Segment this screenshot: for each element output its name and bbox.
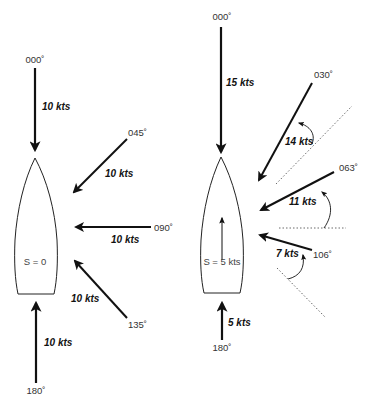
speed-label: 10 kts <box>44 337 73 348</box>
speed-label: 7 kts <box>276 248 299 259</box>
diagram-canvas: S = 0 000˚ 10 kts 045˚ 10 kts 090˚ 10 kt… <box>0 0 371 408</box>
wind-arrow-045-left: 045˚ 10 kts <box>74 127 147 192</box>
heading-label: 180˚ <box>212 342 231 353</box>
speed-label: 10 kts <box>111 234 140 245</box>
heading-label: 090˚ <box>154 222 173 233</box>
wind-arrow-000-right: 000˚ 15 kts <box>212 11 254 152</box>
angle-arrow-063 <box>322 192 331 228</box>
speed-label: 14 kts <box>285 136 314 147</box>
boat-speed-label-left: S = 0 <box>24 256 46 267</box>
speed-label: 5 kts <box>228 317 251 328</box>
left-diagram: S = 0 000˚ 10 kts 045˚ 10 kts 090˚ 10 kt… <box>15 54 173 396</box>
boat-hull-left <box>15 158 58 294</box>
heading-label: 063˚ <box>339 162 358 173</box>
wind-arrow-180-right: 180˚ 5 kts <box>212 303 251 353</box>
speed-label: 10 kts <box>105 168 134 179</box>
wind-arrow-090-left: 090˚ 10 kts <box>76 222 173 245</box>
heading-label: 000˚ <box>212 11 231 22</box>
speed-label: 10 kts <box>42 101 71 112</box>
speed-label: 15 kts <box>226 77 255 88</box>
boat-speed-label-right: S = 5 kts <box>203 256 240 267</box>
right-diagram: S = 5 kts 000˚ 15 kts 030˚ 14 kts 063˚ 1… <box>201 11 358 353</box>
heading-label: 106˚ <box>313 249 332 260</box>
heading-label: 180˚ <box>26 385 45 396</box>
reference-line-106 <box>277 268 326 318</box>
wind-arrow-000-left: 000˚ 10 kts <box>25 54 70 150</box>
heading-label: 000˚ <box>25 54 44 65</box>
heading-label: 135˚ <box>128 319 147 330</box>
speed-label: 11 kts <box>289 196 317 207</box>
wind-arrow-106-right: 106˚ 7 kts <box>260 235 332 260</box>
heading-label: 030˚ <box>314 69 333 80</box>
wind-arrow-063-right: 063˚ 11 kts <box>261 162 358 210</box>
wind-arrow-135-left: 135˚ 10 kts <box>71 261 147 330</box>
wind-arrow-180-left: 180˚ 10 kts <box>26 303 72 396</box>
heading-label: 045˚ <box>128 127 147 138</box>
wind-diagram-svg: S = 0 000˚ 10 kts 045˚ 10 kts 090˚ 10 kt… <box>0 0 371 408</box>
speed-label: 10 kts <box>71 293 100 304</box>
